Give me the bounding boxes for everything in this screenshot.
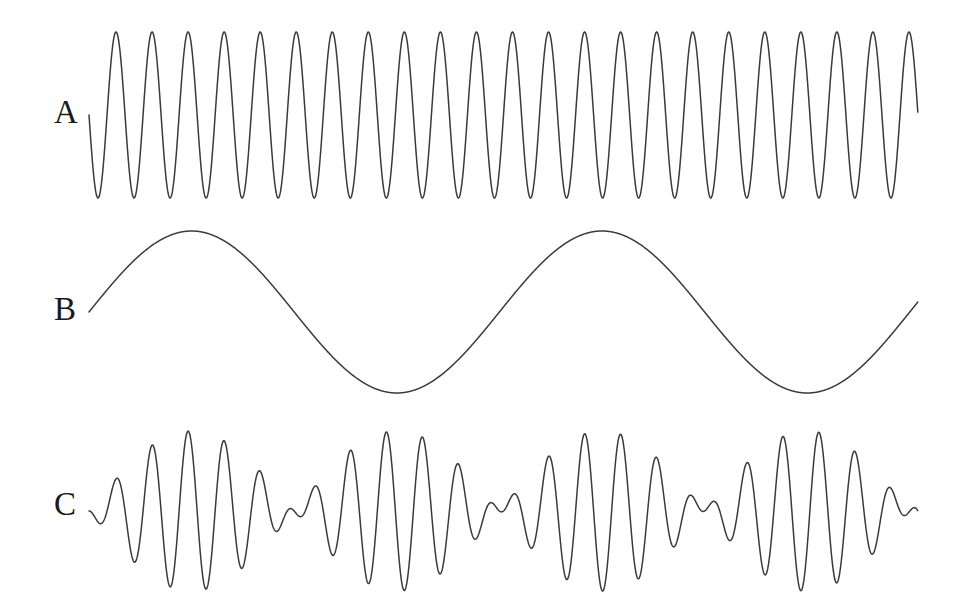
panel-label-b: B (54, 293, 77, 326)
waveform-figure: A B C (0, 0, 969, 616)
panel-label-c: C (54, 488, 77, 521)
waveform-canvas (0, 0, 969, 616)
panel-label-a: A (54, 96, 78, 129)
